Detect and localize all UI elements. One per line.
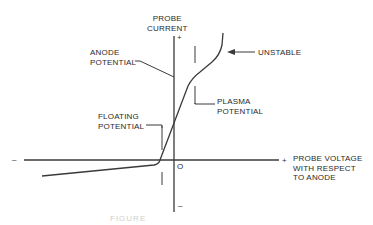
y-axis-label: PROBE CURRENT xyxy=(147,14,188,33)
origin-label: O xyxy=(177,162,183,172)
plasma-potential-leader xyxy=(195,103,215,104)
plasma-potential-line1: PLASMA xyxy=(217,97,263,107)
y-axis-positive-sign: + xyxy=(177,33,182,43)
x-axis-label-line2: WITH RESPECT xyxy=(293,164,362,174)
anode-potential-leader xyxy=(135,61,174,77)
anode-potential-label: ANODE POTENTIAL xyxy=(90,48,136,67)
unstable-label: UNSTABLE xyxy=(258,48,301,58)
anode-potential-line2: POTENTIAL xyxy=(90,58,136,68)
plasma-potential-label: PLASMA POTENTIAL xyxy=(217,97,263,116)
iv-characteristic-diagram xyxy=(0,0,373,225)
floating-potential-leader xyxy=(146,125,162,128)
floating-potential-line1: FLOATING xyxy=(98,112,144,122)
x-axis-label: PROBE VOLTAGE WITH RESPECT TO ANODE xyxy=(293,154,362,183)
plasma-potential-line2: POTENTIAL xyxy=(217,107,263,117)
anode-potential-line1: ANODE xyxy=(90,48,136,58)
y-axis-label-line1: PROBE xyxy=(147,14,188,24)
floating-potential-label: FLOATING POTENTIAL xyxy=(98,112,144,131)
x-axis-positive-sign: + xyxy=(282,156,287,166)
y-axis-label-line2: CURRENT xyxy=(147,24,188,34)
unstable-arrow-head xyxy=(227,49,235,55)
y-axis-negative-sign: – xyxy=(178,201,183,211)
x-axis-label-line1: PROBE VOLTAGE xyxy=(293,154,362,164)
x-axis-negative-sign: – xyxy=(12,155,17,165)
floating-potential-line2: POTENTIAL xyxy=(98,122,144,132)
figure-caption: FIGURE xyxy=(110,214,146,223)
x-axis-label-line3: TO ANODE xyxy=(293,173,362,183)
